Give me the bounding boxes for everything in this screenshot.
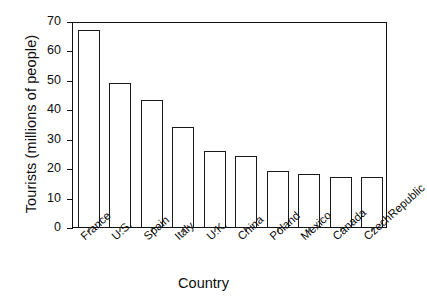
y-axis-tick-label: 40 bbox=[33, 102, 61, 116]
bar bbox=[204, 151, 226, 228]
bar-slot bbox=[357, 23, 389, 227]
y-axis-tick-label: 60 bbox=[33, 43, 61, 57]
y-axis-tick-label: 10 bbox=[33, 191, 61, 205]
bar-slot bbox=[262, 23, 294, 227]
bar-slot bbox=[136, 23, 168, 227]
x-axis-title: Country bbox=[0, 275, 407, 291]
y-axis-tick-label: 50 bbox=[33, 73, 61, 87]
bar-series bbox=[73, 23, 386, 227]
bar bbox=[172, 127, 194, 227]
bar bbox=[141, 100, 163, 227]
bar-slot bbox=[325, 23, 357, 227]
y-axis-tick-label: 20 bbox=[33, 161, 61, 175]
plot-area: 010203040506070 bbox=[72, 22, 387, 228]
y-axis-tick-mark bbox=[67, 228, 73, 229]
bar-slot bbox=[168, 23, 200, 227]
bar bbox=[109, 83, 131, 227]
y-axis-tick-label: 30 bbox=[33, 132, 61, 146]
bar-slot bbox=[73, 23, 105, 227]
bar-slot bbox=[105, 23, 137, 227]
y-axis-tick-label: 70 bbox=[33, 14, 61, 28]
bar-slot bbox=[231, 23, 263, 227]
y-axis-tick-label: 0 bbox=[33, 220, 61, 234]
bar-slot bbox=[294, 23, 326, 227]
bar bbox=[78, 30, 100, 227]
bar-slot bbox=[199, 23, 231, 227]
